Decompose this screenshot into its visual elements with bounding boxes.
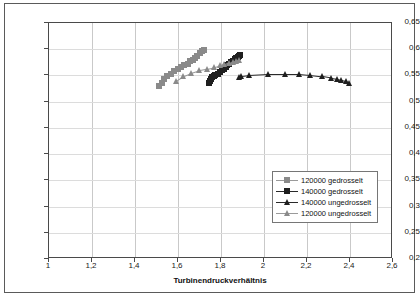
data-point-marker (173, 78, 179, 84)
x-tick-mark (48, 258, 49, 262)
x-tick-label: 2,4 (329, 262, 369, 270)
data-point-marker (196, 67, 202, 73)
legend-item[interactable]: 120000 gedrosselt (276, 175, 373, 186)
chart-legend: 120000 gedrosselt140000 gedrosselt140000… (272, 171, 378, 223)
legend-label: 120000 ungedrosselt (301, 209, 371, 218)
legend-label: 120000 gedrosselt (301, 176, 363, 185)
legend-triangle-marker-icon (276, 198, 298, 207)
data-point-marker (188, 70, 194, 76)
x-tick-label: 2,2 (286, 262, 326, 270)
data-point-marker (180, 73, 186, 79)
legend-item[interactable]: 140000 gedrosselt (276, 186, 373, 197)
legend-label: 140000 gedrosselt (301, 187, 363, 196)
chart-figure: Turbinenwirkungsgrad Turbinendruckverhäl… (0, 0, 420, 299)
x-tick-mark (349, 258, 350, 262)
legend-item[interactable]: 140000 ungedrosselt (276, 197, 373, 208)
x-tick-mark (177, 258, 178, 262)
x-tick-mark (392, 258, 393, 262)
x-tick-label: 2 (243, 262, 283, 270)
legend-square-marker-icon (276, 176, 298, 185)
x-tick-label: 2,6 (372, 262, 412, 270)
x-axis-title: Turbinendruckverhältnis (48, 276, 392, 285)
x-tick-mark (220, 258, 221, 262)
legend-label: 140000 ungedrosselt (301, 198, 371, 207)
x-tick-label: 1 (28, 262, 68, 270)
x-tick-mark (306, 258, 307, 262)
x-tick-label: 1,4 (114, 262, 154, 270)
x-tick-mark (91, 258, 92, 262)
x-tick-mark (263, 258, 264, 262)
x-tick-label: 1,6 (157, 262, 197, 270)
data-point-marker (236, 57, 242, 63)
legend-item[interactable]: 120000 ungedrosselt (276, 208, 373, 219)
legend-triangle-marker-icon (276, 209, 298, 218)
x-tick-label: 1,8 (200, 262, 240, 270)
legend-square-marker-icon (276, 187, 298, 196)
x-tick-label: 1,2 (71, 262, 111, 270)
data-point-marker (204, 66, 210, 72)
x-tick-mark (134, 258, 135, 262)
